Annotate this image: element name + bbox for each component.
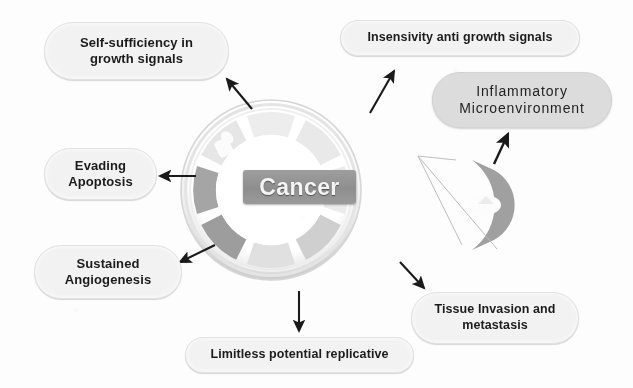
hallmark-tissue-invasion[interactable]: Tissue Invasion and metastasis [411,292,579,344]
hallmark-label: Inflammatory Microenvironment [459,83,585,118]
hallmark-limitless-replicative[interactable]: Limitless potential replicative [185,337,414,373]
hallmark-label: Evading Apoptosis [68,158,132,191]
hallmark-label: Insensivity anti growth signals [367,30,552,46]
hallmark-inflammatory[interactable]: Inflammatory Microenvironment [432,72,612,128]
inflammatory-callout-crescent [438,152,558,258]
hallmark-label: Sustained Angiogenesis [65,256,151,289]
ring-segment-icon [193,166,218,214]
center-cancer-label: Cancer [243,170,356,204]
hallmark-label: Self-sufficiency in growth signals [80,35,193,68]
arrow-icon [370,71,394,113]
hallmark-evading-apoptosis[interactable]: Evading Apoptosis [44,148,157,200]
ring-segment-icon [247,242,295,267]
hallmark-insensitivity[interactable]: Insensivity anti growth signals [340,20,580,56]
hallmark-sustained-angiogenesis[interactable]: Sustained Angiogenesis [34,245,182,299]
hallmarks-of-cancer-figure: Cancer [0,0,633,388]
arrow-icon [400,262,424,288]
hallmark-label: Tissue Invasion and metastasis [434,302,555,333]
ring-segment-icon [247,112,295,137]
callout-cell-icon [469,195,501,215]
hallmark-self-sufficiency[interactable]: Self-sufficiency in growth signals [44,22,229,80]
hallmark-label: Limitless potential replicative [210,347,388,363]
